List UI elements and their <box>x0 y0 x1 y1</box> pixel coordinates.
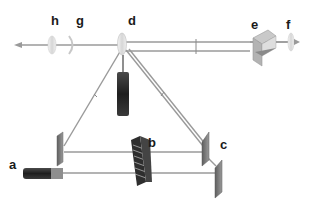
label-b: b <box>148 136 156 149</box>
lens-f <box>288 33 300 51</box>
prism-e <box>253 30 276 66</box>
lens-h <box>48 36 56 54</box>
diagram-canvas <box>0 0 314 204</box>
label-d: d <box>128 14 136 27</box>
laser-a <box>23 168 63 179</box>
mirror-left <box>57 132 63 166</box>
label-h: h <box>51 14 59 27</box>
label-a: a <box>9 158 16 171</box>
label-e: e <box>251 18 258 31</box>
mirror-c <box>202 132 222 198</box>
label-c: c <box>220 138 227 151</box>
beam-splitter-d <box>118 33 127 55</box>
detector-cylinder <box>117 55 129 116</box>
label-f: f <box>286 18 290 31</box>
optical-diagram: a b c d e f g h <box>0 0 314 204</box>
label-g: g <box>76 14 84 27</box>
output-arrow-icon <box>14 42 22 48</box>
